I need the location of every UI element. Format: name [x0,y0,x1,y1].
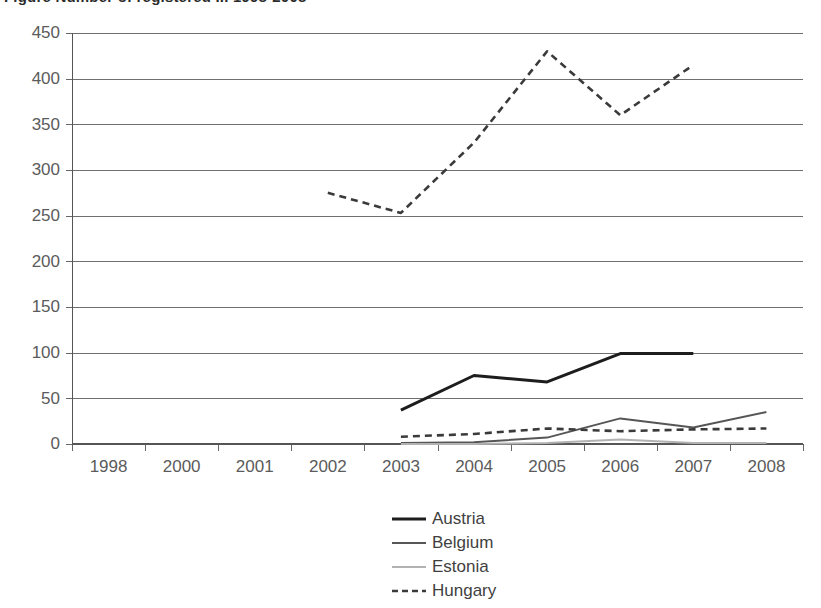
series-line-hungary [328,51,694,213]
x-tick-label-2003: 2003 [382,457,420,476]
y-tick-label-0: 0 [51,434,60,453]
series-line-hungary-low [401,429,767,437]
y-tick-label-100: 100 [32,343,60,362]
y-tick-label-300: 300 [32,160,60,179]
y-tick-label-350: 350 [32,115,60,134]
legend-group: AustriaBelgiumEstoniaHungary [392,509,497,600]
line-chart: 050100150200250300350400450 199820002001… [0,11,821,608]
x-tick-label-2007: 2007 [674,457,712,476]
x-tick-label-2004: 2004 [455,457,493,476]
x-axis-labels-group: 1998200020012002200320042005200620072008 [90,457,786,476]
y-axis-labels-group: 050100150200250300350400450 [32,23,60,453]
y-tick-label-450: 450 [32,23,60,42]
x-tick-label-2001: 2001 [236,457,274,476]
legend-label-belgium: Belgium [432,533,493,552]
legend-label-estonia: Estonia [432,557,489,576]
x-tick-label-1998: 1998 [90,457,128,476]
chart-plot-area: 050100150200250300350400450 199820002001… [0,11,821,608]
legend-label-hungary: Hungary [432,581,497,600]
y-tick-label-50: 50 [41,389,60,408]
x-tick-label-2005: 2005 [528,457,566,476]
axis-lines-group [72,33,803,444]
series-line-belgium [401,412,767,443]
figure-container: Figure Number of registered ... 1998-200… [0,0,821,608]
y-tick-label-400: 400 [32,69,60,88]
legend-label-austria: Austria [432,509,485,528]
x-tick-label-2008: 2008 [748,457,786,476]
gridlines-group [72,34,803,445]
series-line-austria [401,354,693,411]
y-tick-label-200: 200 [32,252,60,271]
x-tick-label-2006: 2006 [601,457,639,476]
series-group [328,51,767,444]
x-tick-label-2000: 2000 [163,457,201,476]
x-tick-label-2002: 2002 [309,457,347,476]
figure-title: Figure Number of registered ... 1998-200… [4,0,306,5]
y-tick-label-250: 250 [32,206,60,225]
axis-ticks-group [66,34,804,452]
y-tick-label-150: 150 [32,297,60,316]
figure-title-strip: Figure Number of registered ... 1998-200… [0,0,821,11]
